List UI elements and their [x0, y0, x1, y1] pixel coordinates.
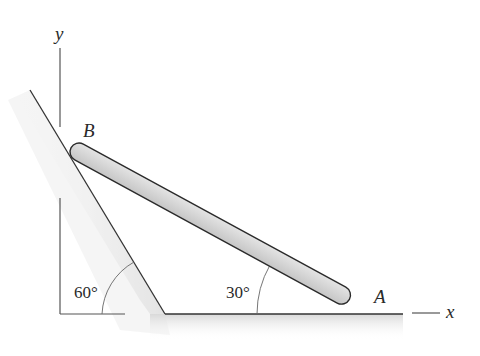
point-label-b: B — [83, 120, 95, 141]
angle-label-60: 60° — [74, 283, 98, 302]
statics-diagram: y x 60° 30° B A — [0, 0, 480, 356]
y-axis-label: y — [53, 23, 64, 44]
floor-shading — [150, 314, 403, 340]
x-axis-label: x — [445, 301, 455, 322]
point-label-a: A — [372, 286, 386, 307]
angle-label-30: 30° — [226, 283, 250, 302]
angle-arc-30 — [257, 265, 270, 314]
